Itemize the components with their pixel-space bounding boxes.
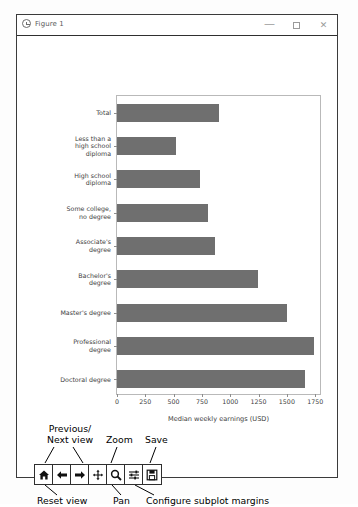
annotation-configure-subplot-margins: Configure subplot margins xyxy=(146,496,269,507)
close-icon: ✕ xyxy=(320,21,328,30)
window-titlebar: Figure 1 — ✕ xyxy=(17,15,337,36)
home-icon xyxy=(38,469,50,481)
figure-window: Figure 1 — ✕ TotalLess than a high schoo… xyxy=(16,14,338,478)
annotation-zoom: Zoom xyxy=(106,435,133,446)
figure-canvas: TotalLess than a high school diplomaHigh… xyxy=(17,36,337,477)
magnifier-icon xyxy=(110,469,122,481)
move-cross-icon xyxy=(92,469,104,481)
arrow-left-icon xyxy=(56,469,68,481)
pan-button[interactable] xyxy=(89,465,107,484)
window-title: Figure 1 xyxy=(35,20,64,28)
back-button[interactable] xyxy=(53,465,71,484)
maximize-button[interactable] xyxy=(283,15,310,36)
zoom-button[interactable] xyxy=(107,465,125,484)
arrow-right-icon xyxy=(74,469,86,481)
annotation-reset-view: Reset view xyxy=(37,496,87,507)
save-button[interactable] xyxy=(143,465,161,484)
home-button[interactable] xyxy=(35,465,53,484)
maximize-icon xyxy=(293,22,300,29)
floppy-disk-icon xyxy=(146,469,158,481)
forward-button[interactable] xyxy=(71,465,89,484)
annotation-previous-next-view: Previous/ Next view xyxy=(39,424,101,445)
minimize-button[interactable]: — xyxy=(256,13,283,39)
sliders-icon xyxy=(128,469,140,481)
annotation-leader-lines xyxy=(17,36,339,479)
figure-clock-icon xyxy=(22,19,31,28)
matplotlib-toolbar xyxy=(34,464,162,485)
configure-subplots-button[interactable] xyxy=(125,465,143,484)
window-controls: — ✕ xyxy=(256,15,337,36)
window-title-group: Figure 1 xyxy=(22,19,64,28)
close-button[interactable]: ✕ xyxy=(310,15,337,36)
minimize-icon: — xyxy=(264,18,275,29)
annotation-pan: Pan xyxy=(113,496,130,507)
annotation-save: Save xyxy=(145,435,168,446)
